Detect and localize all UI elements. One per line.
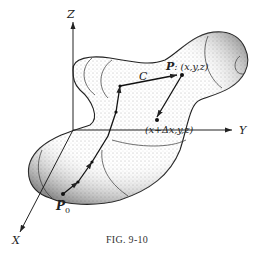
y-axis-label: Y xyxy=(239,124,248,137)
figure-caption: FIG. 9-10 xyxy=(106,234,148,245)
point-p-label: P: (x,y,z) xyxy=(165,60,209,73)
figure-9-10: Z Y X C P: (x,y,z) (x+Δx,y,z) P0 FIG. 9-… xyxy=(0,0,266,259)
point-offset xyxy=(155,118,159,122)
point-p xyxy=(180,73,184,77)
region-surface xyxy=(29,32,248,204)
point-p0 xyxy=(61,192,65,196)
z-axis-label: Z xyxy=(66,8,75,21)
curve-label: C xyxy=(139,70,148,83)
x-axis-label: X xyxy=(11,234,21,247)
point-offset-label: (x+Δx,y,z) xyxy=(145,124,193,135)
